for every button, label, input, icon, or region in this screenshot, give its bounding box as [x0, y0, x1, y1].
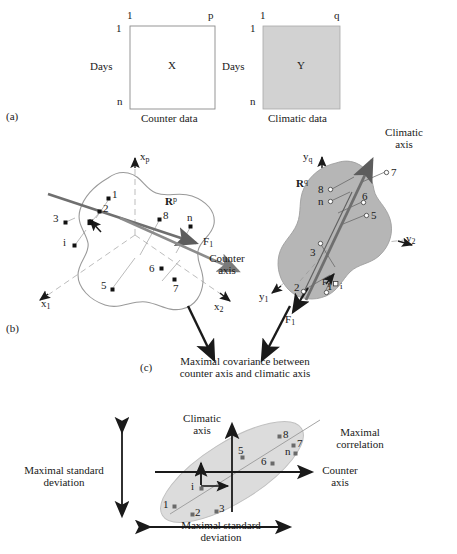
- panel-c-tag: (c): [140, 361, 152, 373]
- panel-c-point-label-1: 1: [163, 498, 169, 510]
- panel-c-horizontal-axis-label: Counter axis: [314, 464, 366, 489]
- matrix-x-caption: Counter data: [141, 112, 198, 124]
- climatic-point-label-8: 8: [318, 183, 324, 195]
- counter-space-group: [40, 158, 238, 310]
- climatic-axis-name: Climatic axis: [376, 126, 432, 151]
- climatic-axis-y2-label: y2: [406, 232, 415, 247]
- counter-point-label-i: i: [63, 236, 66, 248]
- panel-c-point-label-i: i: [191, 480, 194, 492]
- matrix-y-col-first: 1: [260, 9, 266, 21]
- panel-b-tag: (b): [6, 322, 19, 334]
- climatic-point-label-1: 1: [327, 280, 333, 292]
- panel-c-point-label-5: 5: [238, 444, 244, 456]
- convergence-arrows: [188, 306, 290, 360]
- panel-c-point-label-3: 3: [219, 502, 225, 514]
- counter-axis-name: Counter axis: [203, 252, 251, 277]
- climatic-point-label-7: 7: [391, 166, 397, 178]
- counter-space-symbol: Rp: [165, 195, 177, 207]
- panel-c-correlation-label: Maximal correlation: [322, 426, 398, 451]
- panel-c-vertical-axis-label: Climatic axis: [174, 412, 230, 437]
- climatic-space-symbol: Rq: [296, 177, 308, 189]
- counter-factor-f1-label: F1: [203, 235, 213, 250]
- matrix-x-col-first: 1: [127, 9, 133, 21]
- panel-c-headline: Maximal covariance between counter axis …: [167, 355, 323, 380]
- climatic-point-label-i: i: [340, 281, 343, 291]
- matrix-y-symbol: Y: [297, 59, 305, 71]
- climatic-factor-f1-bottom-label: F1: [285, 313, 295, 328]
- climatic-point-label-n: n: [318, 195, 324, 207]
- counter-point-label-n: n: [187, 211, 193, 223]
- panel-c-point-label-2: 2: [195, 506, 201, 518]
- matrix-x-row-first: 1: [116, 22, 122, 34]
- panel-a-tag: (a): [6, 110, 18, 122]
- counter-point-label-5: 5: [101, 279, 107, 291]
- counter-point-label-1: 1: [112, 188, 118, 200]
- matrix-y-row-last: n: [250, 95, 256, 107]
- counter-point-label-8: 8: [163, 209, 169, 221]
- matrix-y-col-last: q: [334, 9, 340, 21]
- climatic-axis-vertical-label: yq: [303, 150, 312, 165]
- matrix-x-symbol: X: [168, 59, 176, 71]
- climatic-point-label-5: 5: [371, 209, 377, 221]
- counter-point-label-2: 2: [103, 202, 109, 214]
- counter-point-label-3: 3: [53, 212, 59, 224]
- matrix-x-col-last: p: [208, 9, 214, 21]
- panel-c-point-label-6: 6: [261, 455, 267, 467]
- climatic-point-label-2: 2: [294, 281, 300, 293]
- matrix-y-row-first: 1: [250, 22, 256, 34]
- counter-axis-x2-label: x2: [214, 300, 223, 315]
- climatic-point-label-3: 3: [310, 246, 316, 258]
- panel-c-point-label-8: 8: [283, 428, 289, 440]
- climatic-point-label-6: 6: [362, 190, 368, 202]
- counter-point-label-6: 6: [149, 262, 155, 274]
- matrix-x-row-last: n: [117, 95, 123, 107]
- panel-c-point-label-n: n: [285, 445, 291, 457]
- matrix-x-row-axis-label: Days: [90, 60, 113, 72]
- counter-axis-x1-label: x1: [41, 297, 50, 312]
- climatic-axis-y1-label: y1: [259, 290, 268, 305]
- counter-point-label-7: 7: [173, 282, 179, 294]
- panel-c-bottom-measure-label: Maximal standard deviation: [166, 519, 276, 544]
- counter-axis-vertical-label: xp: [140, 150, 149, 165]
- panel-c-left-measure-label: Maximal standard deviation: [10, 464, 118, 489]
- matrix-y-caption: Climatic data: [268, 112, 327, 124]
- figure-root: (a) 1 p 1 n Days X Counter data 1 q 1 n …: [0, 0, 457, 554]
- panel-c-point-label-7: 7: [297, 437, 303, 449]
- matrix-y-row-axis-label: Days: [222, 60, 245, 72]
